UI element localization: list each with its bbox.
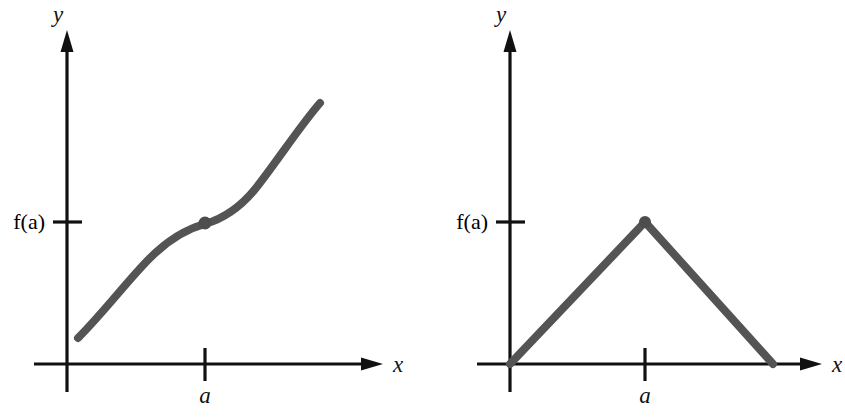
x-axis-arrowhead-right bbox=[800, 358, 822, 371]
chart-panel-right: y x a f(a) bbox=[423, 0, 845, 417]
point-a-fa-left bbox=[199, 217, 212, 230]
x-axis-label-right: x bbox=[831, 352, 843, 377]
chart-panel-left: y x a f(a) bbox=[0, 0, 423, 417]
x-axis-label-left: x bbox=[392, 352, 404, 377]
y-axis-arrowhead-right bbox=[504, 30, 517, 52]
x-axis-arrowhead-left bbox=[361, 358, 383, 371]
x-tick-label-a-right: a bbox=[639, 383, 651, 408]
y-axis-arrowhead-left bbox=[61, 30, 74, 52]
point-a-fa-right bbox=[639, 216, 651, 228]
y-tick-label-fa-right: f(a) bbox=[456, 209, 488, 234]
chart-svg-left: y x a f(a) bbox=[0, 0, 423, 417]
y-tick-label-fa-left: f(a) bbox=[13, 209, 45, 234]
y-axis-label-left: y bbox=[51, 2, 64, 27]
figure-root: y x a f(a) y x a f(a) bbox=[0, 0, 845, 417]
chart-svg-right: y x a f(a) bbox=[423, 0, 845, 417]
x-tick-label-a-left: a bbox=[199, 383, 211, 408]
function-curve-right bbox=[510, 222, 773, 364]
y-axis-label-right: y bbox=[494, 2, 507, 27]
